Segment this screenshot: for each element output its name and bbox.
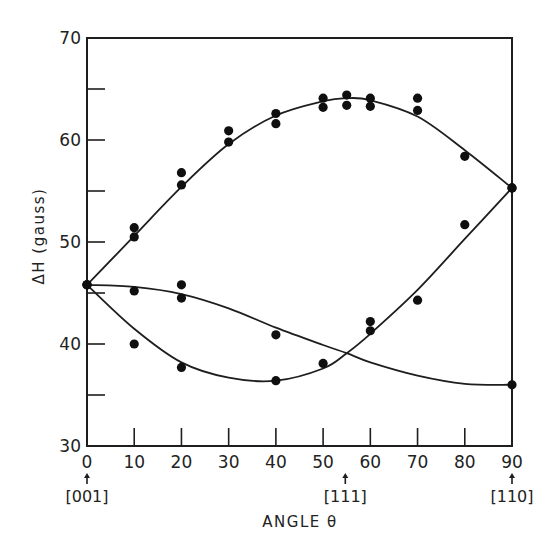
x-axis-title: ANGLE θ xyxy=(262,513,337,531)
x-tick-label: 70 xyxy=(407,452,429,472)
chart: 3040506070 0102030405060708090 [001][111… xyxy=(0,0,552,553)
data-point xyxy=(342,101,351,110)
data-point xyxy=(130,232,139,241)
x-tick-label: 60 xyxy=(360,452,382,472)
data-point xyxy=(177,168,186,177)
data-point xyxy=(224,126,233,135)
data-point xyxy=(130,339,139,348)
y-tick-label: 60 xyxy=(59,130,81,150)
data-point xyxy=(177,180,186,189)
x-tick-label: 0 xyxy=(82,452,93,472)
x-tick-label: 30 xyxy=(218,452,240,472)
x-tick-label: 80 xyxy=(454,452,476,472)
data-point xyxy=(319,359,328,368)
data-point xyxy=(82,280,91,289)
y-tick-label: 40 xyxy=(59,334,81,354)
data-point xyxy=(413,106,422,115)
y-tick-label: 50 xyxy=(59,232,81,252)
y-axis: 3040506070 xyxy=(59,28,105,456)
crystal-direction-label: [110] xyxy=(490,487,533,506)
data-point xyxy=(319,103,328,112)
fit-curve xyxy=(87,285,512,385)
crystal-direction-label: [111] xyxy=(324,487,367,506)
arrow-head-icon xyxy=(342,473,348,478)
direction-annotations: [001][111][110] xyxy=(65,473,533,506)
y-tick-label: 30 xyxy=(59,436,81,456)
data-point xyxy=(342,91,351,100)
data-point xyxy=(507,183,516,192)
data-point xyxy=(366,317,375,326)
data-point xyxy=(366,102,375,111)
data-point xyxy=(460,220,469,229)
data-point xyxy=(130,286,139,295)
data-point xyxy=(271,376,280,385)
data-points xyxy=(82,91,516,390)
data-point xyxy=(177,363,186,372)
data-point xyxy=(366,94,375,103)
x-tick-label: 40 xyxy=(265,452,287,472)
data-point xyxy=(130,223,139,232)
x-axis: 0102030405060708090 xyxy=(82,428,523,472)
data-point xyxy=(271,109,280,118)
y-axis-title: ΔH (gauss) xyxy=(30,188,48,285)
data-point xyxy=(507,380,516,389)
data-point xyxy=(177,294,186,303)
x-tick-label: 20 xyxy=(171,452,193,472)
x-tick-label: 10 xyxy=(123,452,145,472)
fit-curve xyxy=(87,188,512,381)
plot-border xyxy=(87,38,512,446)
data-point xyxy=(460,152,469,161)
plot-frame xyxy=(87,38,512,446)
arrow-head-icon xyxy=(509,473,515,478)
y-tick-label: 70 xyxy=(59,28,81,48)
crystal-direction-label: [001] xyxy=(65,487,108,506)
x-tick-label: 50 xyxy=(312,452,334,472)
data-point xyxy=(413,94,422,103)
fit-curves xyxy=(87,98,512,385)
data-point xyxy=(413,296,422,305)
arrow-head-icon xyxy=(84,473,90,478)
data-point xyxy=(319,94,328,103)
data-point xyxy=(177,280,186,289)
data-point xyxy=(271,119,280,128)
data-point xyxy=(224,137,233,146)
data-point xyxy=(366,326,375,335)
data-point xyxy=(271,330,280,339)
x-tick-label: 90 xyxy=(501,452,523,472)
